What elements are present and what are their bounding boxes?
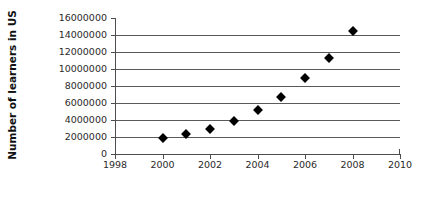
data-point	[205, 124, 215, 134]
gridline	[115, 52, 400, 53]
x-axis-tick-label: 2008	[340, 160, 364, 170]
data-point	[276, 92, 286, 102]
y-axis-tick-mark	[111, 120, 116, 121]
y-axis-tick-mark	[111, 52, 116, 53]
y-axis-tick-label: 0	[101, 149, 107, 159]
y-axis-title-label: Number of learners in US	[6, 10, 18, 160]
data-point	[300, 73, 310, 83]
y-axis-tick-label: 12000000	[59, 47, 107, 57]
y-axis-tick-mark	[111, 103, 116, 104]
y-axis-tick-label: 10000000	[59, 64, 107, 74]
y-axis-tick-labels: 0200000040000006000000800000010000000120…	[24, 18, 111, 154]
y-axis-tick-label: 2000000	[65, 132, 107, 142]
x-axis-tick-labels: 1998200020022004200620082010	[115, 160, 415, 176]
x-axis-tick-label: 2004	[245, 160, 269, 170]
x-axis-tick-label: 2006	[293, 160, 317, 170]
y-axis-tick-label: 6000000	[65, 98, 107, 108]
y-axis-tick-label: 4000000	[65, 115, 107, 125]
data-point	[253, 105, 263, 115]
x-axis-tick-label: 1998	[103, 160, 127, 170]
x-axis-tick-label: 2002	[198, 160, 222, 170]
y-axis-tick-label: 8000000	[65, 81, 107, 91]
gridline	[115, 120, 400, 121]
y-axis-tick-mark	[111, 69, 116, 70]
plot-area	[115, 18, 400, 154]
gridline	[115, 86, 400, 87]
y-axis-tick-label: 14000000	[59, 30, 107, 40]
gridline	[115, 35, 400, 36]
y-axis-tick-mark	[111, 35, 116, 36]
x-axis-tick-label: 2010	[388, 160, 412, 170]
y-axis-title: Number of learners in US	[0, 0, 24, 170]
y-axis-tick-mark	[111, 86, 116, 87]
y-axis-tick-mark	[111, 137, 116, 138]
data-point	[229, 116, 239, 126]
y-axis-tick-label: 16000000	[59, 13, 107, 23]
x-axis-tick-label: 2000	[150, 160, 174, 170]
data-point	[158, 133, 168, 143]
gridline	[115, 69, 400, 70]
y-axis-tick-mark	[111, 18, 116, 19]
scatter-chart: Number of learners in US 020000004000000…	[0, 0, 435, 197]
data-point	[324, 53, 334, 63]
